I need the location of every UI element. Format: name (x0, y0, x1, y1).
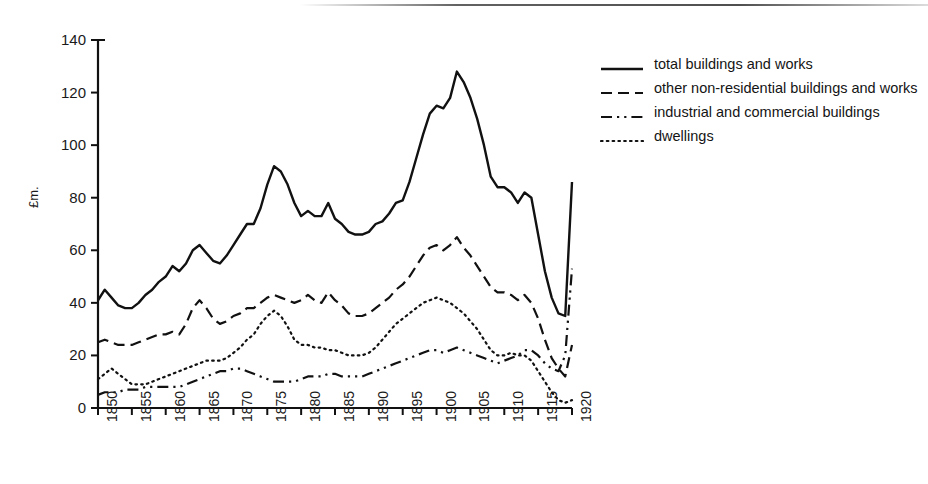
series-line (98, 237, 572, 376)
x-tick-label: 1900 (443, 391, 459, 422)
legend-label: industrial and commercial buildings (654, 104, 880, 121)
y-tick-label: 40 (40, 294, 86, 311)
legend-line-sample-dashed (600, 85, 644, 101)
x-tick-label: 1885 (341, 391, 357, 422)
x-tick-label: 1895 (409, 391, 425, 422)
series-line (98, 72, 572, 316)
y-tick-label: 60 (40, 241, 86, 258)
x-tick-label: 1865 (206, 391, 222, 422)
y-tick-label: 140 (40, 31, 86, 48)
x-tick-label: 1855 (138, 391, 154, 422)
x-tick-label: 1905 (476, 391, 492, 422)
chart-legend: total buildings and worksother non-resid… (600, 56, 920, 152)
x-tick-label: 1870 (239, 391, 255, 422)
y-tick-label: 100 (40, 136, 86, 153)
x-tick-label: 1880 (307, 391, 323, 422)
legend-item: dwellings (600, 128, 920, 149)
legend-line-sample-solid (600, 61, 644, 77)
legend-label: dwellings (654, 128, 714, 145)
x-tick-label: 1860 (172, 391, 188, 422)
legend-item: other non-residential buildings and work… (600, 80, 920, 101)
x-tick-label: 1910 (510, 391, 526, 422)
legend-line-sample-dotted (600, 133, 644, 149)
chart-figure: £m. 140120100806040200 18501855186018651… (0, 0, 928, 484)
y-tick-label: 120 (40, 84, 86, 101)
y-tick-label: 20 (40, 346, 86, 363)
y-axis-label: £m. (26, 186, 41, 208)
legend-line-sample-dashdot (600, 109, 644, 125)
x-tick-label: 1920 (578, 391, 594, 422)
legend-item: industrial and commercial buildings (600, 104, 920, 125)
legend-item: total buildings and works (600, 56, 920, 77)
x-tick-label: 1875 (273, 391, 289, 422)
legend-label: total buildings and works (654, 56, 813, 73)
y-tick-label: 0 (40, 399, 86, 416)
series-line (98, 298, 572, 403)
y-tick-label: 80 (40, 189, 86, 206)
x-tick-label: 1850 (104, 391, 120, 422)
x-tick-label: 1915 (544, 391, 560, 422)
legend-label: other non-residential buildings and work… (654, 80, 918, 97)
x-tick-label: 1890 (375, 391, 391, 422)
